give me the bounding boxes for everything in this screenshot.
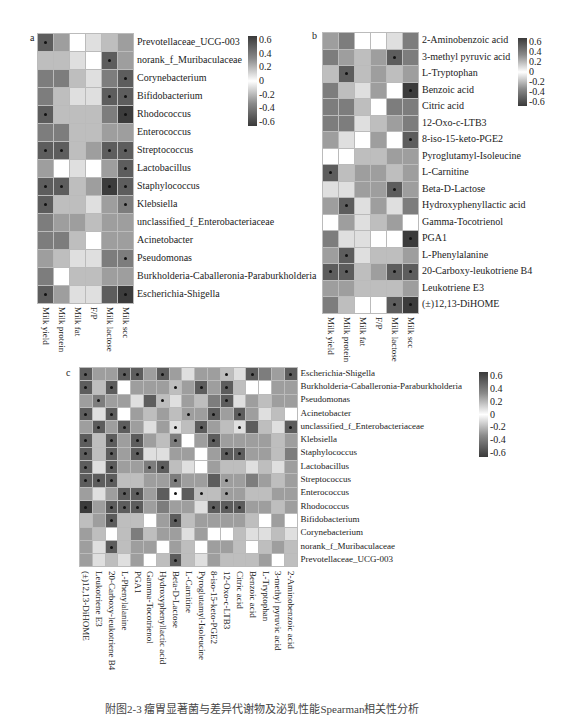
heatmap-cell bbox=[285, 381, 297, 393]
colorbar-tick-label: 0.2 bbox=[490, 397, 503, 407]
column-label: Hydroxyphenyllactic acid bbox=[158, 571, 167, 664]
heatmap-cell bbox=[195, 408, 207, 420]
heatmap-cell bbox=[259, 514, 271, 526]
heatmap-cell bbox=[234, 501, 246, 513]
heatmap-cell bbox=[93, 528, 105, 540]
column-label: 12-Oxo-c-LTB3 bbox=[222, 571, 231, 629]
heatmap-cell bbox=[221, 514, 233, 526]
heatmap-cell bbox=[80, 395, 92, 407]
heatmap-cell bbox=[106, 514, 118, 526]
heatmap-cell bbox=[118, 501, 130, 513]
heatmap-cell bbox=[195, 381, 207, 393]
heatmap-cell bbox=[144, 514, 156, 526]
row-label: norank_f_Muribaculaceae bbox=[301, 542, 395, 551]
colorbar-tick-label: -0.6 bbox=[490, 448, 506, 458]
heatmap-cell bbox=[208, 488, 220, 500]
heatmap-cell bbox=[246, 408, 258, 420]
colorbar bbox=[479, 372, 488, 457]
heatmap-cell bbox=[221, 474, 233, 486]
heatmap-cell bbox=[234, 368, 246, 380]
column-label: L-Phenylalanine bbox=[120, 571, 129, 630]
significance-marker bbox=[97, 426, 100, 429]
significance-marker bbox=[238, 452, 241, 455]
heatmap-cell bbox=[259, 541, 271, 553]
heatmap-cell bbox=[234, 474, 246, 486]
heatmap-cell bbox=[80, 554, 92, 566]
heatmap-cell bbox=[131, 381, 143, 393]
heatmap-cell bbox=[208, 528, 220, 540]
heatmap-cell bbox=[195, 421, 207, 433]
column-label: Benzoic acid bbox=[248, 571, 257, 618]
heatmap-cell bbox=[221, 461, 233, 473]
heatmap-cell bbox=[259, 368, 271, 380]
heatmap-cell bbox=[118, 514, 130, 526]
column-label: Beta-D-Lactose bbox=[171, 571, 180, 628]
heatmap-cell bbox=[131, 514, 143, 526]
heatmap-cell bbox=[272, 381, 284, 393]
row-label: Lactobacillus bbox=[301, 462, 349, 471]
heatmap-cell bbox=[170, 554, 182, 566]
heatmap-cell bbox=[93, 381, 105, 393]
column-label: (±)12,13-DiHOME bbox=[81, 571, 90, 641]
heatmap-cell bbox=[246, 421, 258, 433]
heatmap-cell bbox=[234, 434, 246, 446]
significance-marker bbox=[136, 492, 139, 495]
heatmap-cell bbox=[157, 554, 169, 566]
heatmap-cell bbox=[157, 501, 169, 513]
heatmap-cell bbox=[221, 448, 233, 460]
heatmap-cell bbox=[182, 488, 194, 500]
significance-marker bbox=[84, 466, 87, 469]
heatmap-cell bbox=[106, 408, 118, 420]
heatmap-cell bbox=[157, 408, 169, 420]
heatmap-cell bbox=[80, 434, 92, 446]
heatmap-cell bbox=[170, 474, 182, 486]
heatmap-cell bbox=[285, 368, 297, 380]
heatmap-cell bbox=[208, 554, 220, 566]
significance-marker bbox=[110, 519, 113, 522]
heatmap-cell bbox=[285, 421, 297, 433]
row-label: Enterococcus bbox=[301, 488, 349, 497]
significance-marker bbox=[136, 506, 139, 509]
heatmap-cell bbox=[246, 554, 258, 566]
heatmap-cell bbox=[118, 461, 130, 473]
heatmap-cell bbox=[106, 381, 118, 393]
heatmap-cell bbox=[234, 541, 246, 553]
heatmap-cell bbox=[272, 554, 284, 566]
heatmap-cell bbox=[195, 368, 207, 380]
heatmap-cell bbox=[170, 421, 182, 433]
heatmap-cell bbox=[272, 421, 284, 433]
heatmap-cell bbox=[182, 395, 194, 407]
heatmap-cell bbox=[144, 448, 156, 460]
heatmap-cell bbox=[106, 488, 118, 500]
heatmap-cell bbox=[208, 501, 220, 513]
heatmap-cell bbox=[80, 541, 92, 553]
heatmap-cell bbox=[246, 381, 258, 393]
heatmap-cell bbox=[195, 514, 207, 526]
heatmap-cell bbox=[221, 554, 233, 566]
heatmap-cell bbox=[208, 408, 220, 420]
heatmap-cell bbox=[208, 448, 220, 460]
heatmap-cell bbox=[131, 421, 143, 433]
heatmap-cell bbox=[285, 461, 297, 473]
significance-marker bbox=[110, 386, 113, 389]
heatmap-cell bbox=[131, 434, 143, 446]
heatmap-cell bbox=[221, 381, 233, 393]
colorbar-tick-label: -0.2 bbox=[490, 422, 506, 432]
column-label: L-Carnitine bbox=[184, 571, 193, 613]
significance-marker bbox=[84, 439, 87, 442]
significance-marker bbox=[97, 399, 100, 402]
heatmap-cell bbox=[144, 381, 156, 393]
heatmap-cell bbox=[195, 474, 207, 486]
heatmap-cell bbox=[157, 434, 169, 446]
heatmap-cell bbox=[234, 421, 246, 433]
heatmap-cell bbox=[285, 434, 297, 446]
row-label: Acinetobacter bbox=[301, 409, 351, 418]
heatmap-cell bbox=[285, 474, 297, 486]
heatmap-cell bbox=[259, 474, 271, 486]
heatmap-cell bbox=[93, 474, 105, 486]
heatmap-grid bbox=[79, 367, 298, 567]
heatmap-cell bbox=[118, 448, 130, 460]
heatmap-cell bbox=[259, 381, 271, 393]
heatmap-cell bbox=[170, 501, 182, 513]
